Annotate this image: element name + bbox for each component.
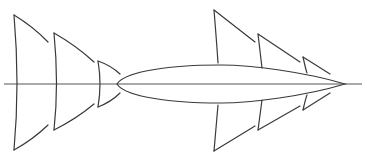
wedge-front-line [54, 33, 57, 130]
segment-lower-barb [258, 106, 300, 130]
wedge-lower-tail [98, 93, 120, 107]
wedge-lower-tail [54, 104, 94, 130]
upstream-wedge-segments [14, 15, 120, 150]
wedge-upper-tail [14, 15, 48, 42]
segment-upper-stem [258, 34, 262, 68]
segment-upper-stem [214, 10, 218, 63]
wedge-upper-tail [54, 33, 94, 62]
wedge-upper-tail [98, 61, 120, 74]
wedge-segment-2 [54, 33, 94, 130]
segment-upper-barb [214, 10, 255, 42]
nose-arrow-segments [214, 10, 330, 151]
wedge-lower-tail [14, 125, 48, 150]
wedge-front-line [14, 15, 17, 150]
wedge-segment-1 [14, 15, 48, 150]
segment-lower-barb [214, 126, 255, 151]
nose-segment-2 [258, 34, 300, 130]
segment-lower-stem [214, 105, 218, 151]
segment-upper-barb [258, 34, 300, 62]
nose-segment-1 [214, 10, 255, 151]
body-shock-diagram [0, 0, 367, 162]
segment-lower-stem [258, 100, 262, 130]
